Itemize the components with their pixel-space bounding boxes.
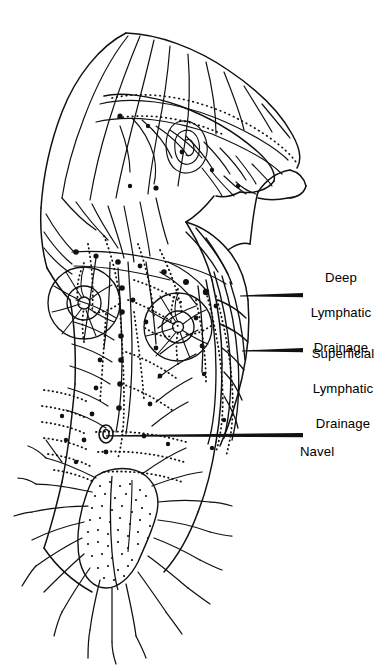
label-navel-line-1: Navel [300, 443, 360, 461]
label-superficial-line-2: Lymphatic [300, 380, 386, 398]
label-deep-line-1: Deep [300, 269, 382, 287]
label-superficial-line-1: Superficial [300, 345, 386, 363]
label-navel: Navel [300, 425, 360, 478]
label-deep-line-2: Lymphatic [300, 304, 382, 322]
